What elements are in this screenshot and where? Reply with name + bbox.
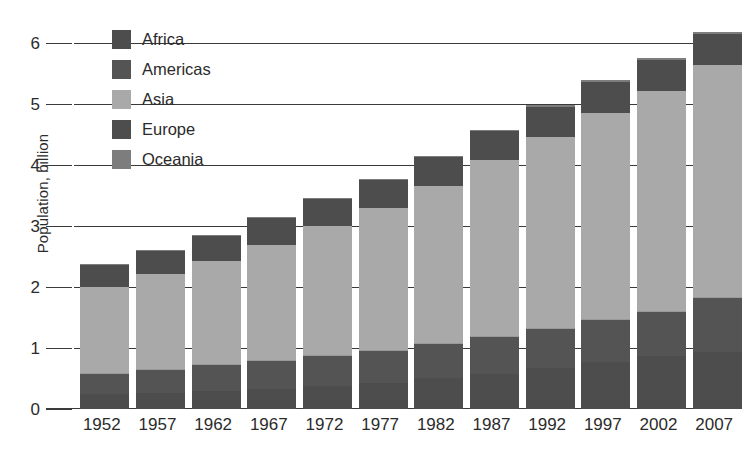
x-tick-label: 1987 (464, 415, 520, 435)
bar-1982 (414, 156, 463, 409)
bar-segment-africa (136, 393, 185, 409)
x-tick-label: 2002 (631, 415, 687, 435)
bar-2002 (637, 58, 686, 409)
y-tick-mark (46, 226, 72, 227)
bar-segment-europe (414, 157, 463, 186)
bar-segment-africa (470, 374, 519, 409)
bar-segment-asia (303, 226, 352, 354)
y-tick-mark (46, 287, 72, 288)
bar-segment-europe (581, 82, 630, 113)
bar-segment-oceania (526, 105, 575, 106)
x-tick-label: 1957 (130, 415, 186, 435)
bar-1952 (80, 264, 129, 409)
bar-segment-oceania (303, 198, 352, 199)
bar-1987 (470, 130, 519, 409)
legend-swatch-icon (112, 120, 131, 139)
y-tick-label: 5 (0, 104, 40, 105)
y-tick-mark (46, 43, 72, 44)
legend-item-europe[interactable]: Europe (112, 114, 262, 144)
bar-segment-oceania (80, 264, 129, 265)
x-tick-label: 1982 (408, 415, 464, 435)
x-tick-label: 1977 (352, 415, 408, 435)
y-tick-mark (46, 104, 72, 105)
bar-segment-europe (359, 180, 408, 208)
x-tick-label: 1952 (74, 415, 130, 435)
y-tick-mark (46, 348, 72, 349)
bar-segment-oceania (470, 130, 519, 131)
bar-segment-europe (247, 218, 296, 244)
x-tick-label: 1962 (185, 415, 241, 435)
y-tick-mark (46, 165, 72, 166)
bar-segment-africa (637, 356, 686, 409)
bar-segment-asia (526, 137, 575, 328)
bar-segment-americas (470, 336, 519, 374)
legend-swatch-icon (112, 150, 131, 169)
y-tick-label: 0 (0, 409, 40, 410)
legend-swatch-icon (112, 90, 131, 109)
bar-segment-europe (80, 265, 129, 288)
bar-segment-asia (693, 65, 742, 298)
bar-segment-asia (192, 261, 241, 365)
y-tick-label: 3 (0, 226, 40, 227)
bar-segment-oceania (359, 179, 408, 180)
y-tick-mark (46, 409, 72, 410)
bar-segment-africa (414, 378, 463, 409)
bar-segment-americas (414, 343, 463, 378)
bar-segment-americas (247, 360, 296, 389)
bar-segment-africa (80, 394, 129, 409)
bar-1997 (581, 80, 630, 409)
bar-segment-europe (192, 236, 241, 261)
bar-segment-oceania (247, 217, 296, 218)
bar-segment-europe (637, 60, 686, 91)
bar-segment-oceania (637, 58, 686, 60)
bar-segment-europe (303, 199, 352, 226)
y-tick-label: 6 (0, 43, 40, 44)
bar-segment-africa (192, 391, 241, 409)
bar-segment-americas (693, 297, 742, 352)
bar-segment-americas (581, 319, 630, 362)
legend-label: Europe (142, 120, 195, 139)
legend-item-africa[interactable]: Africa (112, 24, 262, 54)
bar-2007 (693, 32, 742, 409)
bar-1972 (303, 198, 352, 409)
bar-segment-asia (136, 274, 185, 369)
legend-swatch-icon (112, 60, 131, 79)
y-tick-label: 1 (0, 348, 40, 349)
bar-segment-africa (247, 389, 296, 409)
bar-segment-asia (581, 113, 630, 319)
legend-item-americas[interactable]: Americas (112, 54, 262, 84)
bar-1962 (192, 235, 241, 409)
bar-segment-asia (637, 91, 686, 311)
bar-segment-africa (581, 362, 630, 409)
bar-segment-americas (526, 328, 575, 368)
bar-segment-asia (80, 287, 129, 373)
bar-segment-oceania (192, 235, 241, 236)
x-axis-labels: 1952195719621967197219771982198719921997… (74, 415, 742, 445)
bar-segment-oceania (693, 32, 742, 34)
bar-segment-americas (80, 373, 129, 394)
x-tick-label: 1997 (575, 415, 631, 435)
x-tick-label: 2007 (686, 415, 742, 435)
bar-segment-europe (470, 131, 519, 160)
bar-segment-asia (247, 245, 296, 360)
x-tick-label: 1967 (241, 415, 297, 435)
legend-item-asia[interactable]: Asia (112, 84, 262, 114)
bar-1967 (247, 217, 296, 409)
bar-1957 (136, 250, 185, 409)
bar-segment-asia (359, 208, 408, 350)
bar-segment-americas (637, 311, 686, 356)
legend-swatch-icon (112, 30, 131, 49)
bar-segment-africa (693, 352, 742, 409)
y-tick-label: 4 (0, 165, 40, 166)
bar-1992 (526, 105, 575, 409)
legend-label: Africa (142, 30, 184, 49)
population-stacked-bar-chart: Population, billion 0123456 195219571962… (0, 0, 753, 456)
bar-segment-americas (303, 355, 352, 386)
bar-segment-europe (136, 250, 185, 274)
legend-item-oceania[interactable]: Oceania (112, 144, 262, 174)
legend: AfricaAmericasAsiaEuropeOceania (112, 24, 262, 174)
bar-segment-europe (693, 34, 742, 65)
bar-segment-africa (526, 368, 575, 409)
bar-segment-oceania (136, 250, 185, 251)
legend-label: Asia (142, 90, 174, 109)
